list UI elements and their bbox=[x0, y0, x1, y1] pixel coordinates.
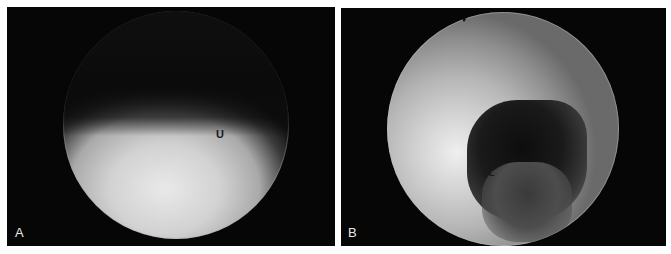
annotation-l: L bbox=[489, 168, 495, 178]
panel-a-endoscopic-image: A bbox=[7, 7, 335, 246]
endoscope-field-of-view bbox=[387, 12, 619, 246]
dark-upper-region bbox=[63, 11, 289, 136]
lumen-shadow bbox=[482, 162, 572, 242]
annotation-u: U bbox=[216, 128, 224, 140]
panel-label: B bbox=[348, 225, 357, 240]
panel-label: A bbox=[15, 225, 24, 240]
scope-orientation-notch bbox=[459, 14, 469, 22]
panel-b-endoscopic-image: B bbox=[341, 8, 666, 246]
endoscope-field-of-view bbox=[63, 11, 289, 239]
